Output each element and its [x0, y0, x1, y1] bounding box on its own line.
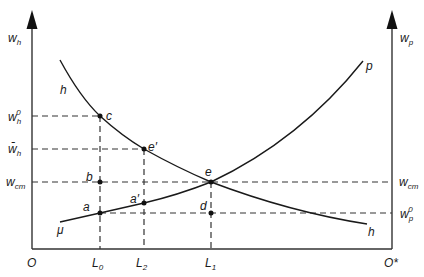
origin-left: O [27, 256, 36, 270]
curve-h [60, 60, 367, 224]
label-wh-bar: w̄h [8, 142, 22, 158]
label-curve-h-end: h [368, 225, 375, 239]
point-b [98, 180, 103, 185]
point-e [209, 180, 214, 185]
label-curve-p: p [365, 59, 373, 73]
left-axis-arrow-icon [27, 10, 38, 29]
origin-right: O* [384, 256, 398, 270]
label-e-prime: e′ [148, 140, 158, 154]
point-a [98, 211, 103, 216]
right-axis-arrow-icon [387, 10, 398, 29]
point-e-prime [142, 147, 147, 152]
label-L2: L2 [136, 256, 148, 272]
right-axis-title: wp [400, 31, 414, 47]
label-e: e [205, 165, 212, 179]
label-curve-h-top: h [60, 83, 67, 97]
label-d: d [200, 199, 207, 213]
left-axis-title: wh [8, 31, 22, 47]
point-a-prime [142, 201, 147, 206]
label-c: c [106, 109, 112, 123]
label-wp0: wp0 [400, 205, 414, 223]
label-wcm-left: wcm [6, 175, 26, 191]
label-b: b [86, 170, 93, 184]
label-L0: L0 [92, 256, 104, 272]
point-d [209, 211, 214, 216]
labor-market-diagram: c e′ e b a a′ d h h p μ wh wp wh0 w̄h wc… [0, 0, 424, 277]
point-c [98, 114, 103, 119]
label-a: a [83, 200, 90, 214]
label-L1: L1 [205, 256, 216, 272]
label-wh0: wh0 [8, 108, 22, 126]
label-a-prime: a′ [130, 192, 140, 206]
label-curve-mu: μ [56, 223, 64, 237]
label-wcm-right: wcm [399, 175, 419, 191]
